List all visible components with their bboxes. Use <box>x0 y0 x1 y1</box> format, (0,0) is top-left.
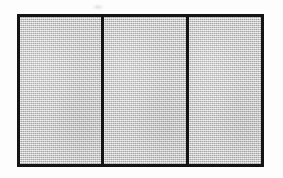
panel-right <box>189 17 261 164</box>
figure-canvas <box>0 0 283 178</box>
panel-left <box>20 17 101 164</box>
scan-smudge-artifact <box>92 4 104 10</box>
panel-middle <box>104 17 186 164</box>
three-panel-figure <box>17 14 264 167</box>
